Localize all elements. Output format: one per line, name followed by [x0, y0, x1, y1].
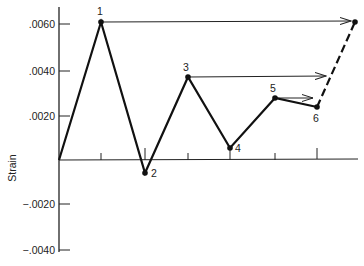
data-points [98, 19, 358, 176]
x-axis [59, 159, 358, 160]
point-label-2: 2 [151, 167, 157, 179]
y-axis-label: Strain [6, 154, 18, 182]
y-ticks [59, 24, 70, 250]
strain-path-dashed [317, 22, 355, 107]
point-label-1: 1 [97, 5, 103, 17]
strain-history-diagram: .0060 .0040 .0020 −.0020 −.0040 Strain 1… [0, 0, 364, 266]
point-label-6: 6 [313, 112, 319, 124]
arrow-from-1 [101, 21, 351, 22]
y-tick-label: .0040 [29, 65, 55, 77]
arrow-from-3 [188, 76, 326, 77]
point-label-3: 3 [183, 61, 189, 73]
point-label-4: 4 [235, 142, 241, 154]
y-tick-label: .0060 [29, 18, 55, 30]
point-label-5: 5 [270, 82, 276, 94]
y-tick-label: −.0040 [23, 244, 56, 256]
y-tick-label: −.0020 [23, 198, 56, 210]
y-tick-label: .0020 [29, 110, 55, 122]
x-ticks [101, 148, 317, 160]
